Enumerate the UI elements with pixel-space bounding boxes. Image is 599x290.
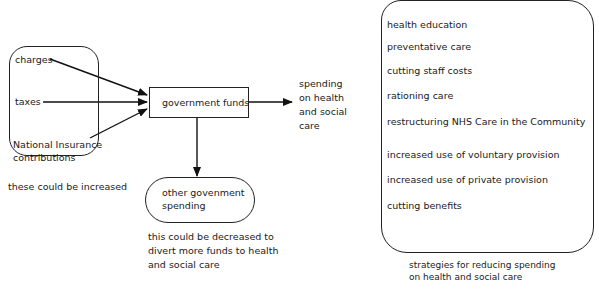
caption-line: strategies for reducing spending xyxy=(409,259,556,271)
strategy-item: cutting benefits xyxy=(387,201,462,211)
strategy-item: increased use of private provision xyxy=(387,175,548,185)
strategy-item: rationing care xyxy=(387,91,453,101)
source-national-insurance-line2: contributions xyxy=(13,153,76,163)
label-line: and social xyxy=(299,105,347,119)
strategy-item: restructuring NHS Care in the Community xyxy=(387,117,585,127)
strategy-item: cutting staff costs xyxy=(387,66,472,76)
strategy-item: preventative care xyxy=(387,42,471,52)
label-line: care xyxy=(299,119,347,133)
source-national-insurance-line1: National Insurance xyxy=(13,140,102,150)
other-spending-line1: other govenment xyxy=(162,188,245,198)
label-line: spending xyxy=(299,77,347,91)
caption-line: on health and social care xyxy=(409,271,556,283)
strategies-caption: strategies for reducing spending on heal… xyxy=(409,259,556,283)
other-spending-caption: this could be decreased to divert more f… xyxy=(148,230,278,272)
caption-line: divert more funds to health xyxy=(148,244,278,258)
caption-line: this could be decreased to xyxy=(148,230,278,244)
other-spending-line2: spending xyxy=(162,201,206,211)
label-line: on health xyxy=(299,91,347,105)
strategy-item: health education xyxy=(387,20,467,30)
strategy-item: increased use of voluntary provision xyxy=(387,150,560,160)
source-charges: charges xyxy=(15,55,53,65)
government-funds-label: government funds xyxy=(162,98,249,108)
source-taxes: taxes xyxy=(15,97,41,107)
sources-caption: these could be increased xyxy=(8,182,127,192)
caption-line: and social care xyxy=(148,258,278,272)
spending-on-health-label: spending on health and social care xyxy=(299,77,347,133)
